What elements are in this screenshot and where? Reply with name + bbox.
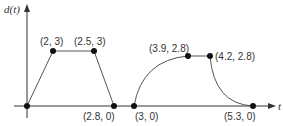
label-2.8-0: (2.8, 0)	[83, 111, 115, 122]
series-trapezoid	[27, 51, 114, 106]
point-2.5-3	[91, 48, 97, 54]
chart: d(t) t (2, 3) (2.5, 3) (2.8, 0) (3, 0) (…	[0, 0, 283, 126]
point-3-0	[131, 103, 137, 109]
point-2-3	[50, 48, 56, 54]
label-2.5-3: (2.5, 3)	[74, 36, 106, 47]
x-axis-label: t	[278, 100, 282, 112]
label-4.2-2.8: (4.2, 2.8)	[215, 51, 255, 62]
label-3-0: (3, 0)	[135, 111, 158, 122]
point-2.8-0	[111, 103, 117, 109]
label-2-3: (2, 3)	[40, 36, 63, 47]
label-3.9-2.8: (3.9, 2.8)	[149, 43, 189, 54]
point-4.2-2.8	[207, 53, 213, 59]
label-5.3-0: (5.3, 0)	[224, 111, 256, 122]
y-axis-label: d(t)	[4, 3, 20, 16]
point-origin	[24, 103, 30, 109]
point-5.3-0	[250, 103, 256, 109]
x-axis-arrow-icon	[268, 103, 276, 109]
series-curve	[134, 56, 253, 106]
y-axis-arrow-icon	[24, 4, 30, 12]
